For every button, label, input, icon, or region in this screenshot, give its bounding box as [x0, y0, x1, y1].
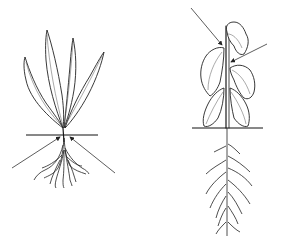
left-plant-leaves: [24, 30, 104, 128]
left-pointer-1: [12, 137, 60, 168]
right-taproot: [206, 128, 252, 236]
left-pointer-2: [70, 137, 115, 173]
right-plant: [191, 8, 267, 236]
right-pointer-1: [191, 8, 222, 45]
left-plant: [12, 30, 115, 188]
plant-comparison-diagram: Comparison of two plant types Monocot se…: [0, 0, 281, 248]
diagram-svg: [0, 0, 281, 248]
right-plant-leaves: [201, 22, 255, 127]
